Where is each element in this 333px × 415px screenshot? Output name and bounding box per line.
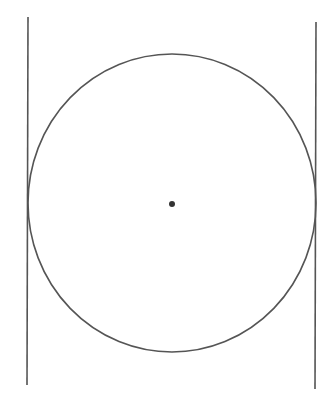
diagram-canvas bbox=[0, 0, 333, 415]
center-point bbox=[169, 201, 175, 207]
